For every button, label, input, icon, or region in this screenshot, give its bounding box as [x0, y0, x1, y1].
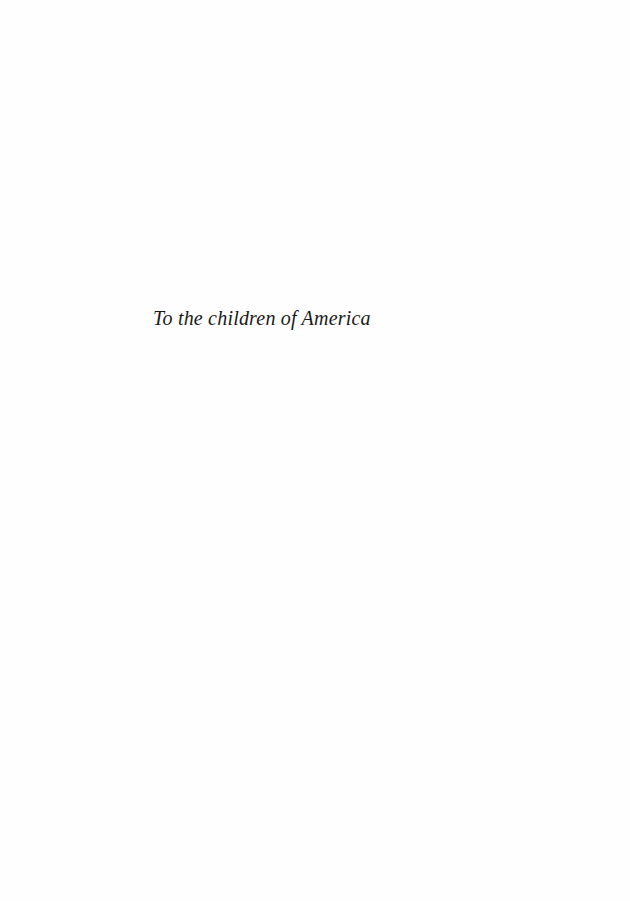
dedication-text: To the children of America [153, 306, 371, 330]
book-page: To the children of America [0, 0, 630, 901]
